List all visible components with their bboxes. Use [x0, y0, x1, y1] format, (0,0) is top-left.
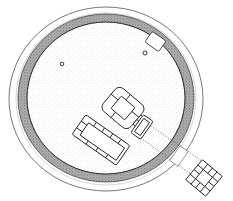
- site-plan: [0, 0, 233, 201]
- external-square-structure: [186, 160, 223, 197]
- posthole-northeast: [143, 51, 147, 55]
- posthole-west: [60, 62, 64, 66]
